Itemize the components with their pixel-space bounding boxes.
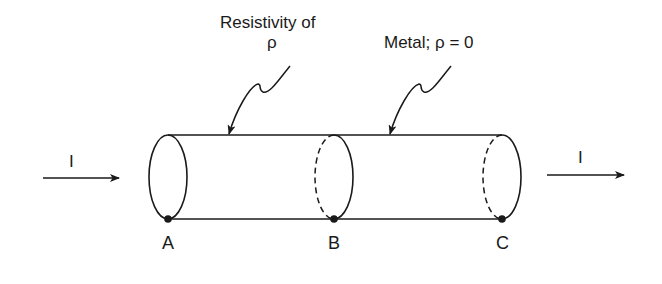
end-face-a xyxy=(149,135,187,219)
point-b-dot xyxy=(330,215,338,223)
metal-label: Metal; ρ = 0 xyxy=(384,34,474,51)
current-out-label: I xyxy=(578,149,583,166)
point-c-dot xyxy=(498,215,506,223)
current-in-label: I xyxy=(69,153,74,170)
junction-b-visible-edge xyxy=(334,135,353,219)
point-a-dot xyxy=(164,215,172,223)
point-c-label: C xyxy=(496,234,509,252)
resistivity-label: Resistivity of xyxy=(220,14,315,31)
metal-leader-arrow xyxy=(390,66,451,134)
junction-b-hidden-edge xyxy=(315,135,334,219)
resistivity-leader-arrow xyxy=(229,66,290,134)
point-a-label: A xyxy=(162,234,174,252)
end-face-c-hidden-edge xyxy=(483,135,502,219)
point-b-label: B xyxy=(328,234,340,252)
end-face-c-visible-edge xyxy=(502,135,521,219)
resistivity-symbol: ρ xyxy=(267,34,277,51)
